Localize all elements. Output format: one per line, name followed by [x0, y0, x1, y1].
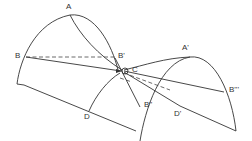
label-B: B [15, 52, 20, 60]
label-A-prime: A' [182, 44, 189, 52]
arc-D-to-C [89, 73, 120, 111]
line-A-to-C [70, 15, 122, 70]
label-B-prime: B' [118, 52, 125, 60]
arc-left [17, 15, 118, 84]
geometric-diagram: A B B' C A' B''' B'' D' D [0, 0, 252, 141]
arc-right [140, 57, 236, 141]
line-bottom-left [24, 85, 136, 131]
label-D-prime: D' [174, 110, 181, 118]
label-C: C [132, 66, 138, 74]
label-B-double-prime: B'' [144, 101, 152, 109]
label-D: D [84, 113, 90, 121]
label-B-triple-prime: B''' [229, 86, 239, 94]
label-A: A [66, 3, 71, 11]
line-corner-left [17, 84, 24, 85]
diagram-canvas [0, 0, 252, 141]
line-D-prime-to-corner [180, 106, 236, 131]
